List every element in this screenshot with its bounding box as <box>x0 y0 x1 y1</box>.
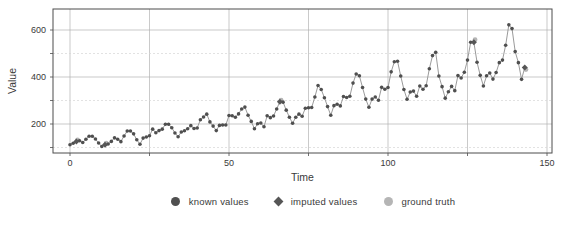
imputed-points <box>73 39 527 147</box>
legend-label-ground-truth: ground truth <box>402 196 456 207</box>
imputation-chart-figure: 050100150200400600TimeValue known values… <box>0 0 570 228</box>
imputed-values-marker-icon <box>273 197 283 207</box>
legend-label-imputed-values: imputed values <box>291 196 358 207</box>
svg-text:200: 200 <box>31 119 46 129</box>
known-points <box>68 23 523 148</box>
legend-item-imputed-values: imputed values <box>275 196 358 207</box>
svg-text:600: 600 <box>31 25 46 35</box>
svg-text:100: 100 <box>380 158 395 168</box>
known-values-marker-icon <box>171 197 180 206</box>
legend-item-known-values: known values <box>171 196 249 207</box>
svg-text:150: 150 <box>539 158 554 168</box>
chart-legend: known values imputed values ground truth <box>0 196 570 207</box>
ground-truth-marker-icon <box>384 197 393 206</box>
legend-label-known-values: known values <box>189 196 249 207</box>
data-line <box>70 25 525 147</box>
svg-text:0: 0 <box>67 158 72 168</box>
chart-svg: 050100150200400600TimeValue <box>0 0 570 192</box>
y-tick-labels: 200400600 <box>31 25 46 129</box>
x-axis-label: Time <box>291 171 314 183</box>
legend-item-ground-truth: ground truth <box>384 196 456 207</box>
svg-text:50: 50 <box>224 158 234 168</box>
svg-text:400: 400 <box>31 72 46 82</box>
y-axis-label: Value <box>6 68 18 94</box>
x-tick-labels: 050100150 <box>67 158 554 168</box>
